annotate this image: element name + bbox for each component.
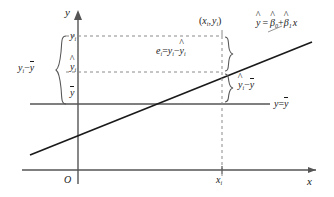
resid-yhat-sub: i [184, 51, 186, 57]
expl-ybar: y [250, 80, 254, 90]
y-hat-i-sub: i [74, 67, 76, 73]
total-dev-ybar: y [30, 63, 34, 73]
y-axis-arrowhead [74, 10, 82, 20]
regression-decomposition-figure: y x O xi (xi,yi) y=β0+β1x y=y yi yi y yi… [0, 0, 334, 197]
x-axis-label: x [307, 176, 312, 187]
observation-point-label: (xi,yi) [199, 16, 221, 26]
y-i-sub: i [74, 36, 76, 42]
regression-equation-label: y=β0+β1x [256, 18, 297, 28]
resid-e-sub: i [160, 51, 162, 57]
y-bar-value-label: y [70, 88, 74, 98]
explained-deviation-label: yi−y [238, 80, 254, 90]
residual-brace [225, 37, 233, 71]
y-bar-base: y [70, 88, 74, 98]
total-deviation-brace [56, 36, 66, 104]
total-deviation-label: yi−y [18, 63, 34, 73]
explained-deviation-brace [225, 74, 233, 102]
reg-beta1-sub: 1 [289, 23, 292, 29]
origin-label: O [64, 175, 71, 185]
reg-beta1: β [284, 18, 289, 28]
x-axis-arrowhead [308, 167, 316, 173]
resid-y-sub: i [172, 51, 174, 57]
y-hat-i-value-label: yi [70, 62, 76, 72]
reg-beta0-sub: 0 [275, 23, 278, 29]
obs-y-sub: i [216, 21, 218, 27]
y-i-value-label: yi [70, 31, 76, 41]
reg-x: x [293, 17, 297, 28]
y-axis-label: y [65, 7, 70, 18]
x-i-tick-sub: i [220, 180, 222, 186]
mean-ybar: y [284, 99, 288, 109]
obs-comma: , [208, 15, 211, 26]
reg-yhat: y [256, 18, 260, 28]
total-dev-y-sub: i [22, 68, 24, 74]
reg-equals: = [262, 17, 268, 28]
mean-line-equation-label: y=y [274, 99, 289, 109]
expl-yhat-sub: i [242, 85, 244, 91]
x-i-tick-label: xi [216, 175, 222, 185]
obs-close-paren: ) [218, 15, 221, 26]
residual-label: ei=yi−yi [156, 46, 186, 56]
